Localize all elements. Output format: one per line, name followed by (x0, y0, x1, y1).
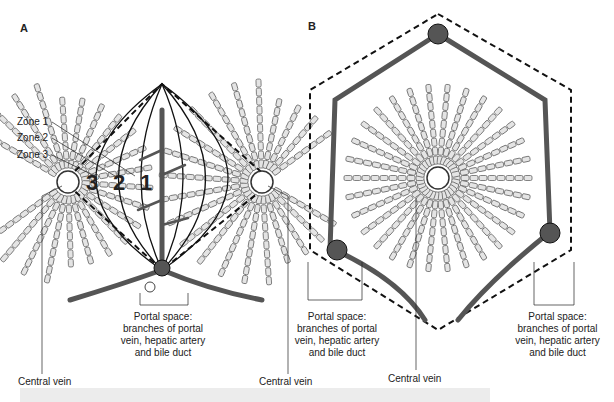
hepatocyte (40, 226, 48, 235)
hepatocyte (316, 135, 325, 144)
hepatocyte (177, 174, 185, 180)
hepatocyte (398, 176, 406, 181)
hepatocyte (504, 160, 513, 167)
hepatocyte (398, 236, 406, 245)
hepatocyte (398, 111, 406, 120)
hepatocyte (32, 160, 41, 168)
portal-line: and bile duct (505, 347, 610, 359)
hepatocyte (304, 122, 313, 131)
hepatocyte (195, 175, 203, 181)
hepatocyte (491, 200, 500, 208)
hepatocyte (451, 171, 460, 178)
hepatocyte (256, 88, 261, 96)
hepatocyte (446, 208, 453, 217)
hepatocyte (36, 234, 44, 243)
hepatocyte (392, 156, 401, 164)
hepatocyte (254, 204, 260, 213)
hepatocyte (499, 145, 508, 153)
hepatocyte (407, 176, 415, 181)
hepatocyte (236, 100, 243, 109)
hepatocyte (402, 228, 410, 237)
hepatocyte (16, 101, 24, 110)
hepatocyte (268, 134, 275, 143)
hepatocyte (68, 241, 73, 249)
hepatocyte (474, 103, 482, 112)
hepatocyte (12, 215, 21, 224)
hepatocyte (360, 227, 369, 236)
zone-3-label: Zone 3 (17, 149, 48, 160)
hepatocyte (376, 148, 385, 156)
central-vein-label-a-right: Central vein (259, 376, 312, 387)
hepatocyte (469, 182, 478, 189)
hepatocyte (492, 131, 501, 140)
hepatocyte (244, 126, 251, 135)
hepatocyte (251, 222, 257, 231)
hepatocyte (431, 138, 437, 146)
hepatocyte (281, 246, 288, 255)
hepatocyte (226, 123, 234, 132)
hepatocyte (379, 113, 388, 122)
hepatocyte (44, 274, 51, 283)
bottom-bar (20, 388, 490, 402)
hepatocyte (384, 152, 393, 160)
hepatocyte (298, 129, 307, 138)
hepatocyte (93, 112, 101, 121)
hepatocyte (227, 159, 236, 167)
hepatocyte (245, 257, 251, 266)
hepatocyte (208, 241, 217, 250)
hepatocyte (0, 253, 9, 262)
hepatocyte (229, 243, 237, 252)
hepatocyte (344, 176, 352, 181)
hepatocyte (240, 218, 248, 227)
hepatocyte (368, 203, 377, 211)
hepatocyte (242, 275, 248, 284)
hepatocyte (398, 182, 407, 189)
hepatocyte (368, 145, 377, 153)
hepatocyte (258, 151, 263, 159)
hepatocyte (448, 216, 455, 225)
hepatocyte (261, 205, 267, 213)
hepatocyte (359, 207, 368, 215)
hepatocyte (68, 250, 73, 258)
central-vein-b (427, 167, 449, 189)
hepatocyte (67, 232, 72, 240)
portal-vein-b-top (428, 24, 448, 44)
hepatocyte (466, 189, 475, 197)
hepatocyte (79, 229, 86, 238)
hepatocyte (48, 257, 55, 266)
portal-line: Portal space: (505, 311, 610, 323)
hepatocyte (1, 142, 10, 150)
portal-space-label-a: Portal space: branches of portal vein, h… (108, 311, 218, 359)
hepatocyte (403, 140, 412, 149)
hepatocyte (470, 213, 479, 222)
hepatocyte (415, 114, 422, 123)
hepatocyte (168, 173, 176, 179)
hepatocyte (129, 149, 138, 157)
hepatocyte (465, 228, 473, 237)
hepatocyte (488, 113, 497, 122)
hepatocyte (278, 137, 286, 146)
hepatocyte (470, 176, 478, 181)
hepatocyte (486, 186, 495, 193)
hepatocyte (400, 159, 409, 167)
hepatocyte (264, 151, 271, 160)
central-vein-label-b: Central vein (388, 373, 441, 384)
hepatocyte (390, 184, 399, 191)
hepatocyte (522, 156, 531, 163)
hepatocyte (137, 145, 146, 153)
hepatocyte (462, 88, 469, 97)
hepatocyte (281, 150, 290, 159)
hepatocyte (246, 134, 253, 143)
hepatocyte (444, 254, 450, 262)
hepatocyte (60, 106, 66, 114)
portal-line: and bile duct (108, 347, 218, 359)
hepatocyte (249, 143, 256, 152)
hepatocyte (429, 111, 435, 119)
hepatocyte (86, 128, 94, 137)
hepatocyte (304, 205, 313, 213)
hepatocyte (389, 251, 397, 260)
hepatocyte (286, 156, 295, 165)
hepatocyte (464, 207, 473, 216)
hepatocyte (193, 227, 202, 236)
hepatocyte (219, 227, 228, 236)
